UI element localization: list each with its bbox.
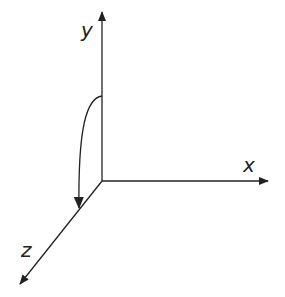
- y-axis-label: y: [81, 20, 93, 40]
- z-axis: [20, 181, 102, 284]
- x-axis-label: x: [243, 155, 255, 175]
- rotation-arrow: [79, 96, 102, 208]
- z-axis-label: z: [21, 240, 32, 260]
- axes-diagram: y x z: [0, 0, 285, 297]
- axes-drawing: [0, 0, 285, 297]
